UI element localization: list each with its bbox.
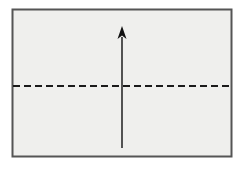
diagram-svg: [0, 0, 245, 174]
figure-canvas: [0, 0, 245, 174]
